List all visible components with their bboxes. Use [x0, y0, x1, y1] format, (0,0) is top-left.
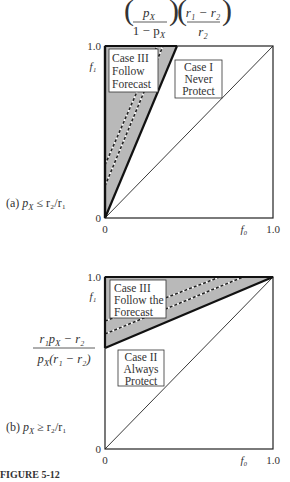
- panel-a-plot: Case III Follow Forecast Case I Never Pr…: [6, 40, 280, 235]
- case-iii-label-line: Forecast: [114, 306, 154, 318]
- y-tick-0: 0: [96, 443, 102, 455]
- x-tick-1: 1.0: [266, 223, 280, 235]
- panel-b-caption: (b) pX ≥ r₂/r₁: [6, 420, 66, 436]
- case-i-label-line: Never: [184, 73, 212, 85]
- formula-r-den: r₂: [198, 24, 208, 39]
- case-iii-label-line: Forecast: [112, 78, 152, 90]
- case-ii-label-line: Protect: [125, 375, 158, 387]
- case-iii-label-line: Case III: [114, 282, 151, 294]
- figure-canvas: ( pX 1 − pX ) ( r₁ − r₂ r₂ ) Case III Fo…: [0, 0, 290, 482]
- formula-r-num: r₁ − r₂: [186, 5, 221, 20]
- formula-px-den: 1 − pX: [133, 23, 166, 40]
- case-iii-label-line: Follow the: [114, 294, 164, 306]
- case-ii-label-line: Case II: [125, 351, 158, 363]
- panel-b-plot: Case III Follow the Forecast Case II Alw…: [6, 271, 280, 466]
- y-axis-label: f₁: [90, 290, 97, 302]
- right-paren: ): [222, 0, 232, 27]
- formula-px-num: pX: [142, 5, 156, 22]
- case-iii-label-line: Case III: [112, 52, 149, 64]
- case-i-label-line: Case I: [184, 61, 213, 73]
- y-tick-0: 0: [96, 212, 102, 224]
- case-i-label-line: Protect: [182, 85, 215, 97]
- y-tick-1: 1.0: [87, 40, 101, 52]
- figure-label: FIGURE 5-12: [0, 469, 60, 480]
- case-iii-label-line: Follow: [112, 65, 145, 77]
- x-tick-1: 1.0: [266, 454, 280, 466]
- panel-a-caption: (a) pX ≤ r₂/r₁: [6, 196, 66, 212]
- intercept-numerator: r₁pX − r₂: [40, 332, 86, 348]
- y-axis-label: f₁: [90, 60, 97, 72]
- y-tick-1: 1.0: [87, 271, 101, 283]
- top-slope-formula: ( pX 1 − pX ) ( r₁ − r₂ r₂ ): [124, 0, 232, 40]
- intercept-denominator: pX(r₁ − r₂): [36, 352, 90, 368]
- x-axis-label: f₀: [241, 223, 248, 235]
- x-tick-0: 0: [102, 454, 108, 466]
- x-tick-0: 0: [102, 223, 108, 235]
- intercept-formula: r₁pX − r₂ pX(r₁ − r₂): [33, 332, 95, 368]
- x-axis-label: f₀: [241, 454, 248, 466]
